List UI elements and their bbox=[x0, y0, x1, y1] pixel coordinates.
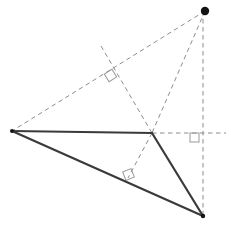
figure-background bbox=[0, 0, 231, 236]
geometry-canvas bbox=[0, 0, 231, 236]
geometry-figure bbox=[0, 0, 231, 236]
vertex-dot-left bbox=[10, 129, 14, 133]
vertex-dot-bottom-right bbox=[201, 214, 205, 218]
vertex-dot-orthocenter bbox=[201, 7, 209, 15]
